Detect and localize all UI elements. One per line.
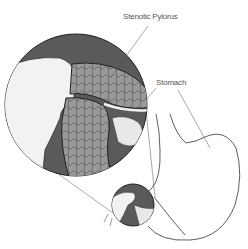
stomach-label: Stomach [156,78,186,87]
magnified-view [0,34,150,200]
stenotic-pylorus-label: Stenotic Pylorus [123,12,178,21]
inset-view [104,184,156,228]
pyloric-stenosis-illustration [0,0,248,249]
stomach-outline [138,114,240,240]
